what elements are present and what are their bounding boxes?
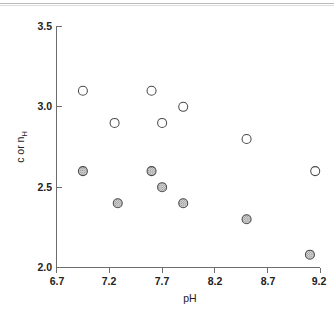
y-tick-label-3-0: 3.0	[37, 100, 52, 112]
data-point-open-circles	[110, 118, 119, 127]
data-point-open-circles	[158, 118, 167, 127]
data-point-shaded-circles	[113, 199, 122, 208]
y-axis-title-main: c or n	[14, 136, 26, 162]
plot-canvas: 3.5 3.0 2.5 2.0 6.7 7.2 7.7 8.2 8.7 9.2 …	[0, 0, 334, 310]
y-axis-title-group: c or nH	[14, 131, 29, 163]
x-axis-tick-labels: 6.7 7.2 7.7 8.2 8.7 9.2	[50, 275, 327, 287]
y-axis-title-subscript: H	[20, 131, 29, 136]
y-axis-tick-labels: 3.5 3.0 2.5 2.0	[37, 20, 52, 273]
data-point-shaded-circles	[158, 183, 167, 192]
x-tick-label-7-7: 7.7	[155, 275, 170, 287]
data-point-shaded-circles	[305, 250, 314, 259]
y-tick-label-2-0: 2.0	[37, 261, 52, 273]
x-tick-label-8-7: 8.7	[261, 275, 276, 287]
y-tick-label-3-5: 3.5	[37, 20, 52, 32]
data-point-open-circles	[242, 134, 251, 143]
y-axis-title: c or nH	[14, 131, 29, 163]
data-point-shaded-circles	[179, 199, 188, 208]
x-tick-label-6-7: 6.7	[50, 275, 65, 287]
data-point-open-circles	[78, 86, 87, 95]
x-tick-label-8-2: 8.2	[208, 275, 223, 287]
data-point-shaded-circles	[242, 215, 251, 224]
data-markers-layer	[78, 86, 319, 259]
data-point-shaded-circles	[78, 167, 87, 176]
x-axis-title: pH	[183, 292, 196, 304]
data-point-shaded-circles	[147, 167, 156, 176]
x-axis-ticks	[57, 268, 321, 274]
data-point-open-circles	[311, 167, 320, 176]
x-tick-label-9-2: 9.2	[312, 275, 327, 287]
y-tick-label-2-5: 2.5	[37, 181, 52, 193]
y-axis-ticks	[57, 27, 63, 268]
data-point-open-circles	[147, 86, 156, 95]
x-tick-label-7-2: 7.2	[102, 275, 117, 287]
scatter-plot-figure: 3.5 3.0 2.5 2.0 6.7 7.2 7.7 8.2 8.7 9.2 …	[0, 0, 334, 310]
data-point-open-circles	[179, 102, 188, 111]
